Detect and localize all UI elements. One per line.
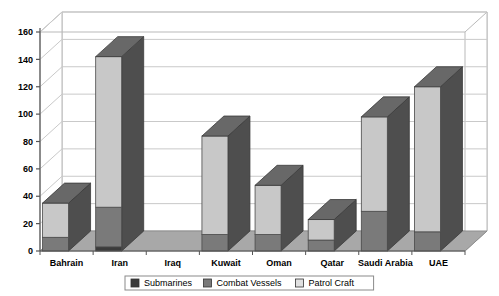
bar-segment-patrol-craft bbox=[255, 185, 281, 234]
bar-segment-combat-vessels bbox=[43, 237, 69, 251]
legend-label: Combat Vessels bbox=[217, 278, 283, 288]
y-tick-label: 40 bbox=[23, 191, 33, 201]
x-tick-label-iran: Iran bbox=[111, 258, 128, 268]
bar-side-face bbox=[122, 37, 144, 251]
bar-segment-patrol-craft bbox=[202, 136, 228, 235]
stacked-bar-chart-3d: 020406080100120140160 BahrainIranIraqKuw… bbox=[0, 0, 499, 296]
bar-segment-patrol-craft bbox=[308, 220, 334, 241]
y-tick-label: 20 bbox=[23, 219, 33, 229]
bar-kuwait bbox=[202, 116, 250, 251]
legend-swatch bbox=[204, 279, 212, 287]
y-tick-label: 0 bbox=[28, 246, 33, 256]
bar-uae bbox=[414, 67, 462, 251]
chart-legend: SubmarinesCombat VesselsPatrol Craft bbox=[125, 276, 374, 290]
x-tick-label-oman: Oman bbox=[266, 258, 292, 268]
bar-segment-patrol-craft bbox=[414, 87, 440, 232]
chart-container: 020406080100120140160 BahrainIranIraqKuw… bbox=[0, 0, 499, 296]
legend-swatch bbox=[295, 279, 303, 287]
y-tick-label: 60 bbox=[23, 164, 33, 174]
y-tick-label: 100 bbox=[18, 109, 33, 119]
x-tick-label-qatar: Qatar bbox=[320, 258, 344, 268]
legend-label: Submarines bbox=[144, 278, 193, 288]
x-tick-label-uae: UAE bbox=[429, 258, 448, 268]
bar-saudi-arabia bbox=[361, 97, 409, 251]
bar-side-face bbox=[440, 67, 462, 251]
bar-side-face bbox=[387, 97, 409, 251]
bar-segment-combat-vessels bbox=[414, 232, 440, 251]
bar-segment-patrol-craft bbox=[43, 203, 69, 237]
bar-segment-combat-vessels bbox=[202, 235, 228, 251]
y-tick-label: 160 bbox=[18, 27, 33, 37]
bar-segment-patrol-craft bbox=[96, 57, 122, 208]
bar-side-face bbox=[228, 116, 250, 251]
bar-iran bbox=[96, 37, 144, 251]
bar-segment-submarines bbox=[96, 247, 122, 251]
x-tick-label-iraq: Iraq bbox=[165, 258, 182, 268]
bar-segment-combat-vessels bbox=[96, 207, 122, 247]
y-tick-label: 120 bbox=[18, 82, 33, 92]
y-tick-label: 80 bbox=[23, 137, 33, 147]
legend-swatch bbox=[131, 279, 139, 287]
x-tick-label-kuwait: Kuwait bbox=[211, 258, 241, 268]
y-tick-label: 140 bbox=[18, 55, 33, 65]
x-tick-label-saudi-arabia: Saudi Arabia bbox=[358, 258, 414, 268]
bar-segment-combat-vessels bbox=[308, 240, 334, 251]
bar-segment-patrol-craft bbox=[361, 117, 387, 211]
legend-label: Patrol Craft bbox=[308, 278, 354, 288]
bar-segment-combat-vessels bbox=[255, 235, 281, 251]
bar-segment-combat-vessels bbox=[361, 211, 387, 251]
x-tick-label-bahrain: Bahrain bbox=[50, 258, 84, 268]
